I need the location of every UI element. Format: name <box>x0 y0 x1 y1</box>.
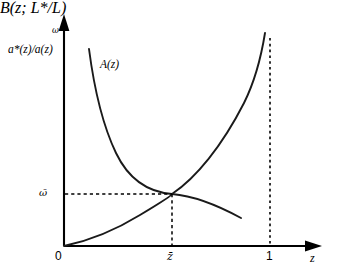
axis-group <box>59 14 322 251</box>
x-axis-name-label: z <box>310 252 315 264</box>
figure-canvas <box>0 0 339 275</box>
curve-a-path <box>89 49 241 218</box>
y-axis-arrowhead <box>59 14 70 31</box>
figure-container: ω a*(z)/a(z) A(z) B(z; L*/L) ω̄ 0 z̄ 1 z <box>0 0 339 275</box>
y-tick-label-omega-bar: ω̄ <box>39 188 47 198</box>
x-tick-label-z-bar: z̄ <box>167 251 173 262</box>
guide-line-group <box>65 38 270 245</box>
curve-group <box>64 33 265 246</box>
x-tick-label-zero: 0 <box>55 250 62 262</box>
curve-a-label: A(z) <box>100 59 119 71</box>
y-axis-description-label: a*(z)/a(z) <box>8 44 53 56</box>
x-axis-arrowhead <box>305 241 322 252</box>
curve-b-label: B(z; L*/L) <box>0 0 66 16</box>
y-axis-name-label: ω <box>52 26 59 35</box>
x-tick-label-one: 1 <box>266 250 273 262</box>
